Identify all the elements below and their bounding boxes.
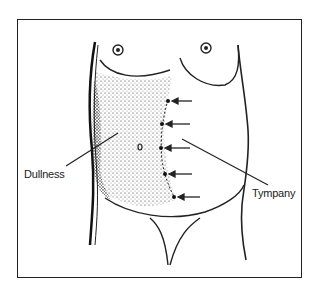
- right-flank: [238, 45, 248, 260]
- dullness-label: Dullness: [24, 168, 65, 180]
- abdomen-illustration: [0, 0, 315, 291]
- tympany-label: Tympany: [252, 187, 295, 199]
- tympany-leader-line: [182, 139, 268, 185]
- groin: [150, 218, 200, 265]
- dullness-region: [94, 72, 175, 206]
